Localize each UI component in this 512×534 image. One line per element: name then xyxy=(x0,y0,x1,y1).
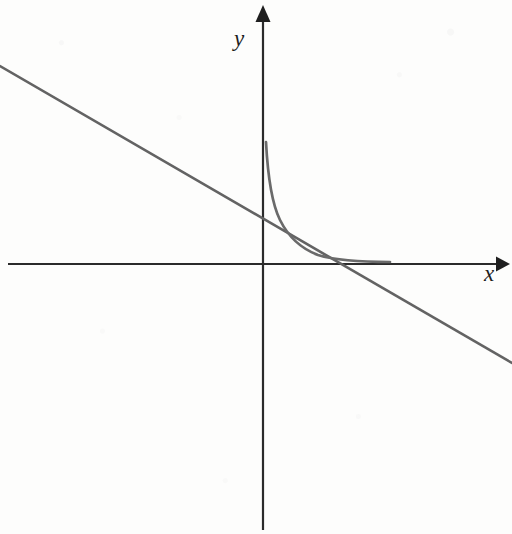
y-axis xyxy=(256,5,271,530)
x-axis-label: x xyxy=(484,262,494,285)
series-decaying-curve xyxy=(266,142,390,262)
graph-figure: y x xyxy=(0,0,512,534)
y-axis-arrowhead-icon xyxy=(256,5,271,22)
plot-canvas xyxy=(0,0,512,534)
y-axis-label: y xyxy=(234,27,244,50)
x-axis xyxy=(8,257,510,272)
x-axis-arrowhead-icon xyxy=(496,257,510,272)
series-descending-line xyxy=(0,66,512,363)
